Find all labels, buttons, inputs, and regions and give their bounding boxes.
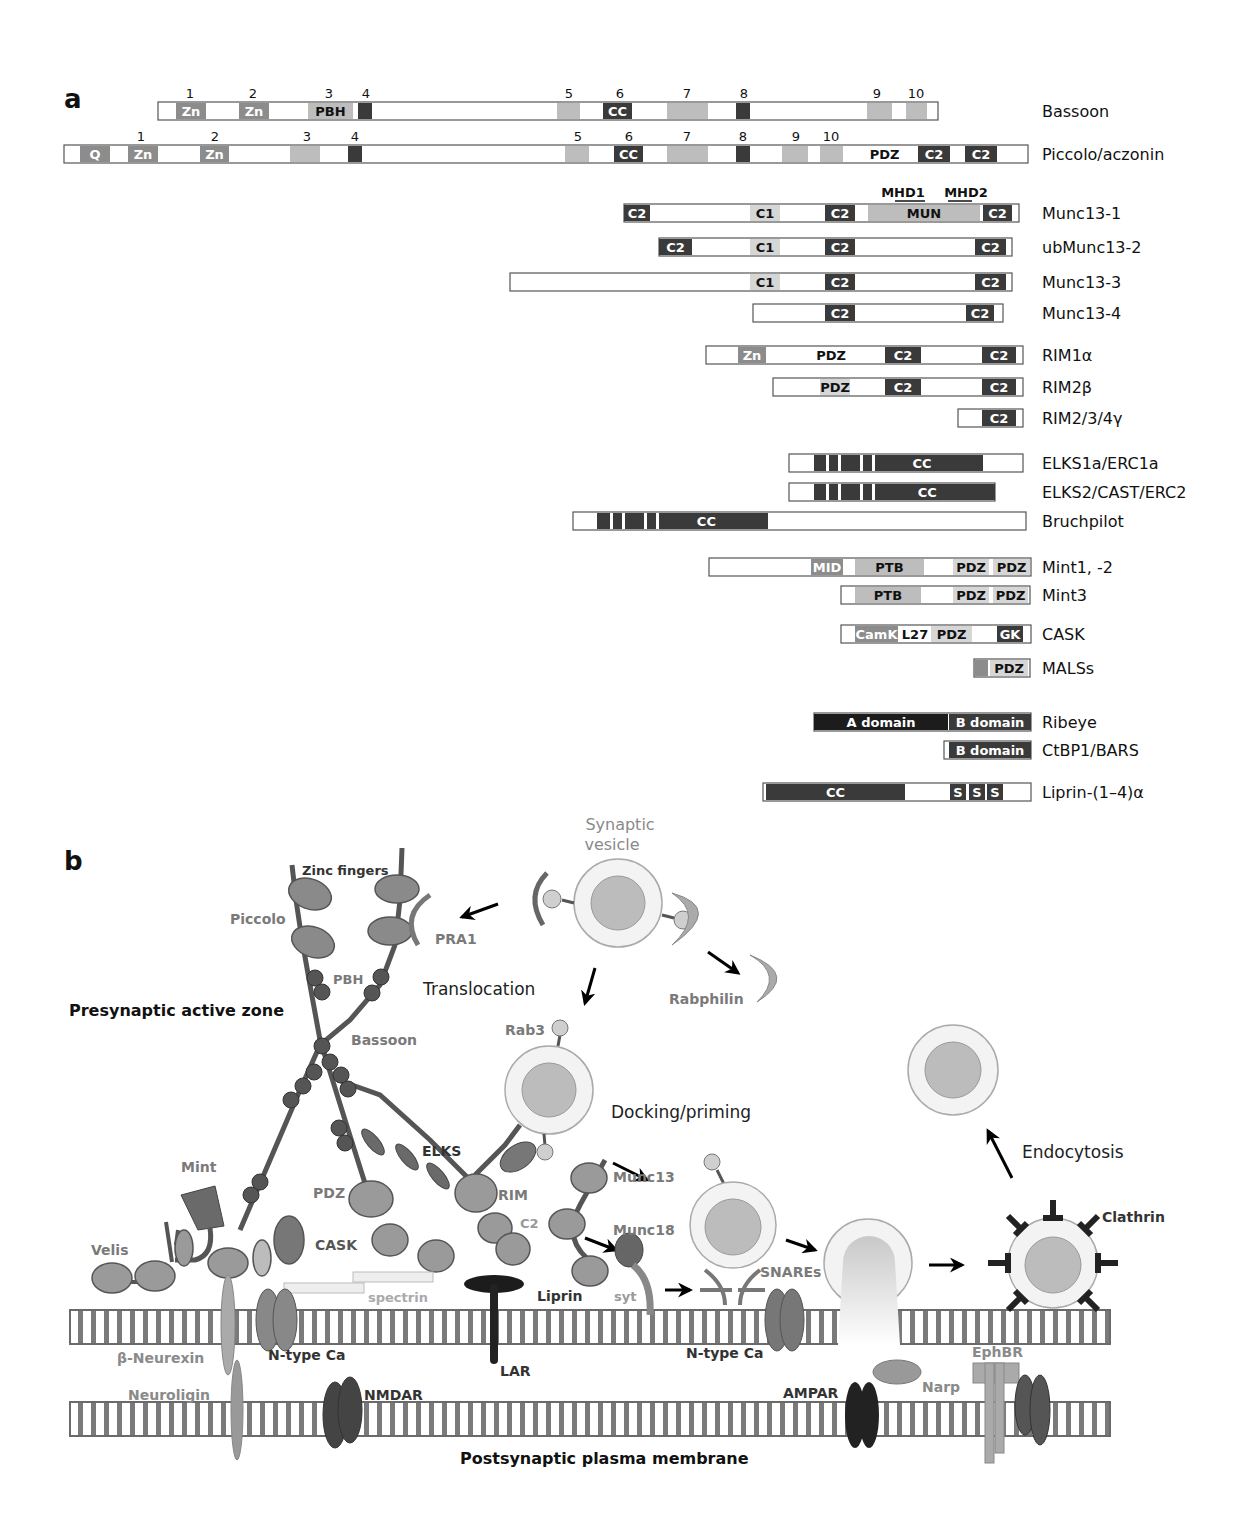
label-nmdar: NMDAR bbox=[364, 1387, 423, 1403]
domain-label: PBH bbox=[315, 104, 345, 119]
domain-label: C2 bbox=[981, 275, 1000, 290]
domain-number: 3 bbox=[325, 86, 333, 101]
domain-label: MID bbox=[813, 560, 842, 575]
domain-stripe bbox=[610, 513, 613, 529]
domain-block bbox=[358, 103, 372, 119]
domain-label: CC bbox=[619, 147, 638, 162]
label-postsynaptic-membrane: Postsynaptic plasma membrane bbox=[460, 1449, 749, 1468]
protein-name: Mint1, -2 bbox=[1042, 558, 1113, 577]
domain-label: C2 bbox=[831, 275, 850, 290]
domain-number: 6 bbox=[616, 86, 624, 101]
protein-row: A domainB domainRibeye bbox=[814, 713, 1097, 732]
protein-row: C1C2C2Munc13-3 bbox=[510, 273, 1121, 292]
label-rim: RIM bbox=[498, 1187, 528, 1203]
label-spectrin: spectrin bbox=[368, 1290, 428, 1305]
label-narp: Narp bbox=[922, 1379, 960, 1395]
protein-row: CCELKS1a/ERC1a bbox=[789, 454, 1159, 473]
label-cask: CASK bbox=[315, 1237, 358, 1253]
domain-label: S bbox=[972, 785, 981, 800]
domain-label: L27 bbox=[902, 627, 928, 642]
domain-number: 7 bbox=[683, 86, 691, 101]
synapse-protein-figure: ZnZnPBHCC12345678910BassoonQZnZnCCPDZC2C… bbox=[0, 0, 1254, 1520]
label-pdz: PDZ bbox=[313, 1185, 345, 1201]
label-liprin: Liprin bbox=[537, 1288, 582, 1304]
protein-row: PDZMALSs bbox=[974, 659, 1094, 678]
protein-row: C2C1C2MUNC2MHD1MHD2Munc13-1 bbox=[624, 185, 1121, 223]
domain-block bbox=[290, 146, 320, 162]
protein-bar bbox=[753, 304, 1003, 322]
domain-number: 6 bbox=[625, 129, 633, 144]
domain-label: Zn bbox=[245, 104, 264, 119]
label-piccolo: Piccolo bbox=[230, 911, 286, 927]
domain-label: B domain bbox=[956, 715, 1025, 730]
domain-label: C1 bbox=[756, 240, 775, 255]
domain-block bbox=[782, 146, 808, 162]
protein-name: Bassoon bbox=[1042, 102, 1109, 121]
domain-label: Zn bbox=[205, 147, 224, 162]
protein-row: C2C1C2C2ubMunc13-2 bbox=[659, 238, 1142, 257]
domain-label: A domain bbox=[847, 715, 916, 730]
domain-block bbox=[814, 484, 995, 500]
protein-name: ELKS2/CAST/ERC2 bbox=[1042, 483, 1186, 502]
domain-label: Zn bbox=[182, 104, 201, 119]
protein-name: Munc13-4 bbox=[1042, 304, 1121, 323]
domain-number: 10 bbox=[908, 86, 925, 101]
protein-row: B domainCtBP1/BARS bbox=[944, 741, 1139, 760]
domain-stripe bbox=[622, 513, 625, 529]
protein-name: ubMunc13-2 bbox=[1042, 238, 1142, 257]
label-presynaptic-active-zone: Presynaptic active zone bbox=[69, 1001, 284, 1020]
domain-label: C2 bbox=[981, 240, 1000, 255]
label-n-type-ca-2: N-type Ca bbox=[686, 1345, 763, 1361]
label-ephbr: EphBR bbox=[972, 1344, 1023, 1360]
domain-number: 2 bbox=[211, 129, 219, 144]
domain-label: C2 bbox=[990, 348, 1009, 363]
domain-block bbox=[348, 146, 362, 162]
label-synaptic-vesicle-2: vesicle bbox=[584, 835, 639, 854]
protein-row: C2C2Munc13-4 bbox=[753, 304, 1121, 323]
protein-name: ELKS1a/ERC1a bbox=[1042, 454, 1159, 473]
domain-label: C2 bbox=[831, 206, 850, 221]
domain-block bbox=[557, 103, 580, 119]
protein-name: Munc13-1 bbox=[1042, 204, 1121, 223]
domain-label: PDZ bbox=[994, 661, 1024, 676]
domain-stripe bbox=[860, 484, 863, 500]
domain-number: 5 bbox=[565, 86, 573, 101]
domain-stripe bbox=[838, 455, 841, 471]
domain-number: 9 bbox=[792, 129, 800, 144]
domain-block bbox=[906, 103, 927, 119]
domain-number: 8 bbox=[740, 86, 748, 101]
domain-stripe bbox=[644, 513, 647, 529]
domain-label: PDZ bbox=[937, 627, 967, 642]
domain-label: S bbox=[990, 785, 999, 800]
domain-label: CC bbox=[826, 785, 845, 800]
protein-row: CCELKS2/CAST/ERC2 bbox=[789, 483, 1186, 502]
domain-label: C2 bbox=[894, 380, 913, 395]
protein-row: CCSSSLiprin-(1–4)α bbox=[763, 783, 1144, 802]
label-snares: SNAREs bbox=[760, 1264, 821, 1280]
domain-label: CC bbox=[608, 104, 627, 119]
domain-block bbox=[820, 146, 843, 162]
protein-name: RIM2/3/4γ bbox=[1042, 409, 1122, 428]
mhd-annotation: MHD1 bbox=[881, 185, 925, 200]
domain-number: 4 bbox=[351, 129, 359, 144]
domain-number: 9 bbox=[873, 86, 881, 101]
domain-label: PDZ bbox=[996, 588, 1026, 603]
domain-label: C2 bbox=[925, 147, 944, 162]
domain-block bbox=[565, 146, 589, 162]
protein-name: Mint3 bbox=[1042, 586, 1087, 605]
mint-velis-cask-complex bbox=[92, 1181, 454, 1293]
domain-stripe bbox=[860, 455, 863, 471]
domain-label: C2 bbox=[972, 147, 991, 162]
postsynaptic-membrane bbox=[70, 1402, 1110, 1436]
domain-label: PTB bbox=[874, 588, 902, 603]
label-pra1: PRA1 bbox=[435, 931, 477, 947]
mhd-annotation: MHD2 bbox=[944, 185, 988, 200]
protein-name: Munc13-3 bbox=[1042, 273, 1121, 292]
rab3-vesicle bbox=[495, 1020, 593, 1178]
domain-label: PDZ bbox=[956, 588, 986, 603]
domain-number: 2 bbox=[249, 86, 257, 101]
protein-name: MALSs bbox=[1042, 659, 1094, 678]
label-docking-priming: Docking/priming bbox=[611, 1102, 751, 1122]
domain-label: C2 bbox=[988, 206, 1007, 221]
domain-number: 7 bbox=[683, 129, 691, 144]
